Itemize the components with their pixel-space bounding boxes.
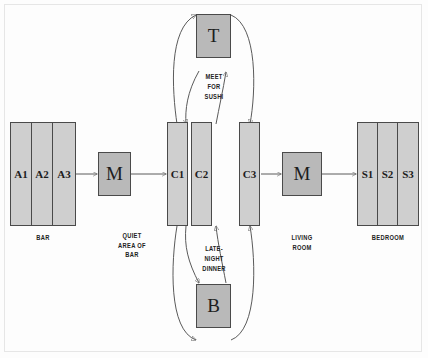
edge-label-line: LATE- [189,244,238,254]
edge-c1-to-t-outer [173,15,196,124]
caption-line: AREA OF [109,241,155,251]
caption-line: BAR [109,250,155,260]
diagram-canvas: A1 A2 A3 BAR M QUIET AREA OF BAR C1 C2 C… [0,0,428,358]
group-cell-a1[interactable]: A1 [10,122,32,226]
living-room-caption: LIVING ROOM [279,233,325,252]
bottom-state-node[interactable]: B [196,284,231,328]
group-cell-label: S1 [362,168,374,180]
group-cell-label: A1 [14,168,27,180]
group-cell-label: S2 [382,168,394,180]
node-label: M [106,163,123,185]
edge-c2-to-b-inner [186,226,199,283]
group-cell-label: S3 [402,168,414,180]
group-cell-label: A3 [57,168,70,180]
edge-b-to-c3-outer [231,226,254,340]
edge-label-line: MEET [191,72,237,82]
group-cell-s2[interactable]: S2 [377,122,398,226]
group-cell-a2[interactable]: A2 [31,122,53,226]
edge-t-to-c3-outer [231,15,254,124]
edge-c1-to-b-outer [173,226,196,340]
edge-t-to-c2-inner [186,71,199,124]
bedroom-caption: BEDROOM [363,233,414,243]
group-cell-s3[interactable]: S3 [397,122,419,226]
caption-line: BEDROOM [363,233,414,243]
meet-for-sushi-label: MEET FOR SUSHI [191,72,237,102]
group-cell-c1[interactable]: C1 [167,122,188,226]
edge-b-to-c2-inner [216,226,226,283]
left-mediator-node[interactable]: M [98,152,131,196]
group-cell-c2[interactable]: C2 [191,122,212,226]
node-label: M [294,163,311,185]
top-state-node[interactable]: T [196,14,231,58]
group-cell-a3[interactable]: A3 [52,122,76,226]
node-label: T [208,25,220,47]
right-mediator-node[interactable]: M [282,152,322,196]
edge-label-line: DINNER [189,264,238,274]
group-cell-c3[interactable]: C3 [239,122,260,226]
group-cell-label: A2 [35,168,48,180]
caption-line: LIVING [279,233,325,243]
caption-line: BAR [16,233,70,243]
group-cell-s1[interactable]: S1 [357,122,378,226]
group-cell-label: C3 [243,168,256,180]
edge-label-line: NIGHT [189,254,238,264]
caption-line: QUIET [109,231,155,241]
edge-label-line: SUSHI [191,92,237,102]
edge-c2-to-t-inner [216,72,226,124]
group-cell-label: C1 [171,168,184,180]
quiet-area-caption: QUIET AREA OF BAR [109,231,155,260]
caption-line: ROOM [279,243,325,253]
node-label: B [207,295,220,317]
late-night-dinner-label: LATE- NIGHT DINNER [189,244,238,274]
group-cell-label: C2 [195,168,208,180]
edge-label-line: FOR [191,82,237,92]
bar-caption: BAR [16,233,70,243]
